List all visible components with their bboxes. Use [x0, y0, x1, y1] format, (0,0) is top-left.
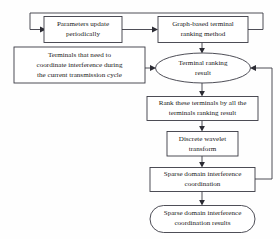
node-terminals-needing-coordination-line-1: Terminals that need to [48, 51, 112, 59]
edge-rank-to-wavelet [199, 120, 205, 132]
node-graph-based-ranking-line-2: ranking method [181, 30, 226, 38]
node-coordination-results-line-2: coordination results [174, 219, 230, 227]
edge-parameters-to-graph [122, 27, 158, 33]
edge-graph-to-ellipse [199, 42, 205, 54]
edge-terminals-to-ellipse [145, 65, 156, 71]
node-rank-terminals-line-2: terminals ranking result [169, 109, 236, 117]
flowchart-svg: Parameters update periodically Graph-bas… [0, 0, 280, 239]
node-parameters-update-line-1: Parameters update [57, 20, 109, 28]
node-terminal-ranking-result[interactable]: Terminal ranking result [156, 53, 251, 83]
node-sparse-domain-coordination-line-2: coordination [185, 180, 221, 188]
node-parameters-update[interactable]: Parameters update periodically [44, 17, 122, 43]
node-rank-terminals-line-1: Rank these terminals by all the [159, 99, 247, 107]
node-graph-based-ranking-line-1: Graph-based terminal [172, 20, 234, 28]
node-parameters-update-line-2: periodically [66, 30, 100, 38]
node-coordination-results-line-1: Sparse domain interference [164, 209, 242, 217]
flowchart-canvas: Parameters update periodically Graph-bas… [0, 0, 280, 239]
node-terminals-needing-coordination-line-3: the current transmission cycle [37, 71, 122, 79]
node-sparse-domain-coordination[interactable]: Sparse domain interference coordination [150, 168, 255, 192]
edge-sparse-to-results [199, 191, 205, 206]
node-terminals-needing-coordination[interactable]: Terminals that need to coordinate interf… [14, 47, 145, 83]
node-discrete-wavelet-transform-line-2: transform [189, 145, 217, 153]
node-terminal-ranking-result-line-2: result [195, 69, 211, 77]
node-terminal-ranking-result-line-1: Terminal ranking [179, 59, 228, 67]
node-terminals-needing-coordination-line-2: coordinate interference during [37, 61, 123, 69]
node-discrete-wavelet-transform-line-1: Discrete wavelet [179, 135, 226, 143]
node-discrete-wavelet-transform[interactable]: Discrete wavelet transform [167, 132, 238, 157]
node-coordination-results[interactable]: Sparse domain interference coordination … [150, 206, 255, 233]
node-rank-terminals[interactable]: Rank these terminals by all the terminal… [147, 97, 258, 121]
node-graph-based-ranking[interactable]: Graph-based terminal ranking method [158, 17, 248, 43]
edge-feedback-right-loop [250, 65, 272, 179]
edge-ellipse-to-rank [199, 83, 205, 97]
node-sparse-domain-coordination-line-1: Sparse domain interference [164, 170, 242, 178]
edge-wavelet-to-sparse [199, 156, 205, 168]
